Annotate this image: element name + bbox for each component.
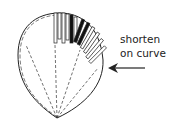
arrow-left-icon <box>108 63 145 73</box>
stitch-bars <box>54 13 106 63</box>
label-line2: on curve <box>120 47 166 59</box>
label-line1: shorten <box>120 33 160 45</box>
leaf-shape-diagram <box>0 0 173 129</box>
diagram: shorten on curve <box>0 0 173 129</box>
